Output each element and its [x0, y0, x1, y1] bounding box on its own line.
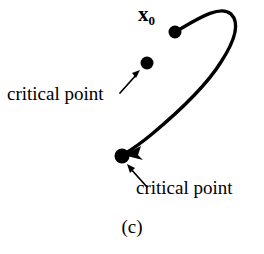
figure-caption: (c)	[0, 216, 264, 238]
critical-point-upper-label: critical point	[7, 84, 104, 103]
initial-point-label-symbol: x	[138, 2, 149, 26]
initial-point-label: x0	[138, 4, 155, 27]
figure-container: x0 critical point critical point (c)	[0, 0, 264, 254]
critical-point-lower-label: critical point	[136, 178, 233, 197]
initial-point-label-subscript: 0	[149, 13, 156, 28]
initial-point-dot	[169, 26, 182, 39]
critical-point-lower-dot	[115, 149, 130, 164]
critical-point-upper-dot	[141, 57, 154, 70]
